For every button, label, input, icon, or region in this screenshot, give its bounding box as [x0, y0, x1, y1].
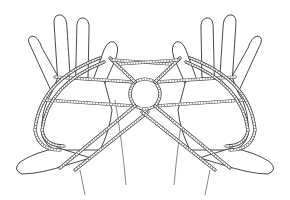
left-wrist-line [80, 170, 85, 195]
left-ring-finger [54, 15, 70, 78]
string-center-loop-string-in [130, 82, 160, 106]
string-figure-drawing [0, 0, 290, 200]
right-wrist-line [205, 170, 210, 195]
string-center-loop [130, 82, 160, 106]
string-center-loop-string-out [130, 82, 160, 106]
right-ring-finger [220, 15, 236, 78]
illustration [0, 0, 290, 200]
string-center-loop-string-hatch [130, 82, 160, 106]
